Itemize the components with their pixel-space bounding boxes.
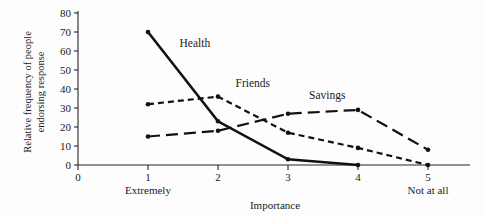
data-point-friends [146, 102, 151, 107]
data-point-friends [426, 163, 431, 168]
series-annotations: HealthFriendsSavings [180, 37, 346, 101]
data-point-health [286, 157, 291, 162]
y-tick-label: 30 [60, 102, 72, 114]
data-point-friends [216, 94, 221, 99]
x-tick-label: 2 [215, 171, 221, 183]
y-tick-label: 80 [60, 7, 72, 19]
y-axis-label-line2: endorsing response [35, 51, 46, 132]
y-tick-label: 60 [60, 45, 72, 57]
x-tick-label: 1 [145, 171, 151, 183]
data-point-savings [286, 111, 291, 116]
data-point-friends [356, 146, 361, 151]
data-point-savings [426, 148, 431, 153]
x-axis-anchor-label: Not at all [408, 184, 449, 196]
data-point-health [356, 163, 361, 168]
y-tick-label: 50 [60, 64, 72, 76]
y-tick-label: 40 [60, 83, 72, 95]
x-axis-anchor-label: Extremely [125, 184, 171, 196]
series-label-friends: Friends [236, 77, 271, 89]
y-axis-label-line1: Relative frequency of people [22, 31, 33, 153]
y-tick-label: 10 [60, 140, 72, 152]
y-axis-label: Relative frequency of people endorsing r… [22, 31, 46, 153]
data-point-health [146, 30, 151, 35]
y-tick-label: 70 [60, 26, 72, 38]
line-chart: Relative frequency of people endorsing r… [0, 0, 485, 216]
series-layer [146, 30, 431, 168]
y-tick-label: 20 [60, 121, 72, 133]
x-tick-label: 0 [75, 171, 81, 183]
x-tick-label: 3 [285, 171, 291, 183]
x-tick-label: 5 [425, 171, 431, 183]
data-point-friends [286, 130, 291, 135]
series-label-savings: Savings [309, 89, 346, 102]
data-point-health [216, 119, 221, 124]
series-label-health: Health [180, 37, 211, 49]
x-axis-title: Importance [250, 199, 300, 211]
y-axis: 01020304050607080 [60, 7, 78, 171]
data-point-savings [356, 108, 361, 113]
x-axis: 012345ExtremelyNot at all [75, 165, 470, 196]
data-point-savings [216, 129, 221, 134]
data-point-savings [146, 134, 151, 139]
chart-figure: Relative frequency of people endorsing r… [0, 0, 485, 216]
x-tick-label: 4 [355, 171, 361, 183]
y-tick-label: 0 [66, 159, 72, 171]
